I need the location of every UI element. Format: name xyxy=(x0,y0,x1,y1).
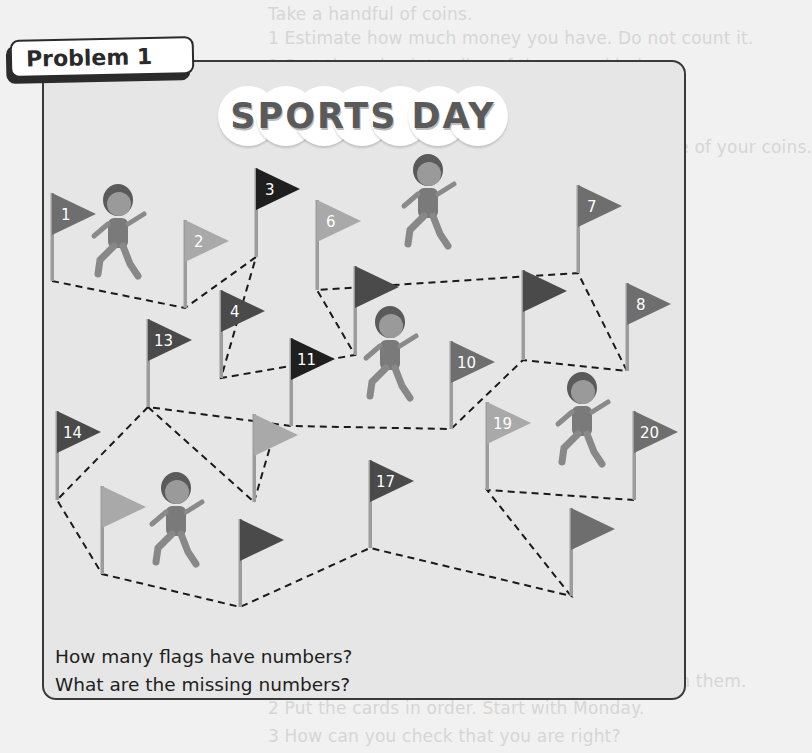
flag-number: 10 xyxy=(457,354,476,372)
flag-pennant xyxy=(571,508,615,550)
flag-13: 13 xyxy=(147,319,193,407)
flag-4: 4 xyxy=(220,290,266,378)
flag-pennant xyxy=(317,200,361,242)
problem-label-tab: Problem 1 xyxy=(10,36,195,78)
flag-number: 3 xyxy=(265,181,275,199)
runner-boy-afro xyxy=(558,372,608,464)
flag-blank-d xyxy=(101,486,147,574)
flag-pennant xyxy=(627,283,671,325)
runner-legs xyxy=(370,368,410,398)
runner-legs xyxy=(98,246,138,276)
runner-legs xyxy=(408,216,448,246)
question-1: How many flags have numbers? xyxy=(55,643,352,671)
question-2: What are the missing numbers? xyxy=(55,671,352,699)
dashed-route xyxy=(52,257,634,607)
runner-boy-curly xyxy=(404,154,454,246)
flag-number: 19 xyxy=(493,415,512,433)
flag-number: 1 xyxy=(61,206,71,224)
flag-number: 11 xyxy=(297,351,316,369)
flag-number: 2 xyxy=(194,233,204,251)
flag-number: 6 xyxy=(326,213,336,231)
flag-pennant xyxy=(240,519,284,561)
flag-number: 13 xyxy=(154,332,173,350)
runner-legs xyxy=(156,534,196,564)
runner-legs xyxy=(562,434,602,464)
runner-face xyxy=(571,380,595,404)
flag-pennant xyxy=(256,168,300,210)
flag-8: 8 xyxy=(626,283,672,371)
runner-boy-arms-up xyxy=(366,306,416,398)
flag-pennant xyxy=(355,266,399,308)
flag-pennant xyxy=(578,185,622,227)
runner-face xyxy=(165,480,189,504)
flag-pennant xyxy=(52,193,96,235)
flag-number: 7 xyxy=(587,198,597,216)
flag-number: 17 xyxy=(376,473,395,491)
flag-pennant xyxy=(523,270,567,312)
flag-blank-c xyxy=(253,414,299,502)
runner-face xyxy=(107,192,131,216)
flag-number: 14 xyxy=(63,424,82,442)
flag-14: 14 xyxy=(56,411,102,500)
flag-pennant xyxy=(102,486,146,528)
runner-girl-ponytail xyxy=(94,184,144,276)
flag-19: 19 xyxy=(486,402,532,490)
flag-7: 7 xyxy=(577,185,623,273)
banner-title: SPORTS DAY xyxy=(218,86,508,146)
flag-blank-e xyxy=(239,519,285,607)
flag-blank-b xyxy=(522,270,568,360)
flag-pennant xyxy=(221,290,265,332)
sports-day-banner: SPORTS DAY xyxy=(218,86,508,146)
flag-blank-f xyxy=(570,508,616,596)
flag-number: 20 xyxy=(640,424,659,442)
problem-label: Problem 1 xyxy=(26,43,153,71)
flag-number: 8 xyxy=(636,296,646,314)
runner-face xyxy=(379,314,403,338)
runner-girl-braids xyxy=(152,472,202,564)
flag-number: 4 xyxy=(230,303,240,321)
flag-1: 1 xyxy=(51,193,97,281)
flag-3: 3 xyxy=(255,168,301,257)
flag-20: 20 xyxy=(633,411,679,500)
runner-face xyxy=(417,162,441,186)
flag-17: 17 xyxy=(369,460,415,548)
flag-pennant xyxy=(185,220,229,262)
flag-11: 11 xyxy=(290,338,336,426)
questions: How many flags have numbers? What are th… xyxy=(55,643,352,699)
